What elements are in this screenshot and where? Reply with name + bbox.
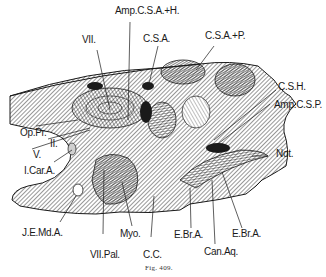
label-vii: VII. [82,35,96,45]
otic-capsule [72,88,148,128]
label-vii-pal: VII.Pal. [90,250,120,260]
label-myo: Myo. [120,229,140,239]
label-i-car-a: I.Car.A. [24,166,55,176]
label-v: V. [33,150,41,160]
label-e-br-a-1: E.Br.A. [174,230,203,240]
myotome-region [92,154,138,204]
label-not: Not. [276,149,293,159]
label-j-e-md-a: J.E.Md.A. [22,228,63,238]
label-e-br-a-2: E.Br.A. [232,229,261,239]
label-cc: C.C. [143,250,162,260]
label-amp-csa-h: Amp.C.S.A.+H. [115,6,179,16]
label-can-aq: Can.Aq. [204,247,238,257]
dark-cavity [140,101,152,123]
label-amp-csp: Amp.C.S.P. [274,100,322,110]
label-ii: II. [50,139,57,149]
foramen [73,184,83,196]
label-op-pr: Op.Pr. [20,128,47,138]
figure-caption: Fig. 409. [145,264,173,272]
label-csa: C.S.A. [143,34,170,44]
label-csh: C.S.H. [278,82,306,92]
canal-csa-p [161,60,205,84]
canal-csh [215,64,255,96]
label-csa-p: C.S.A.+P. [205,31,245,41]
